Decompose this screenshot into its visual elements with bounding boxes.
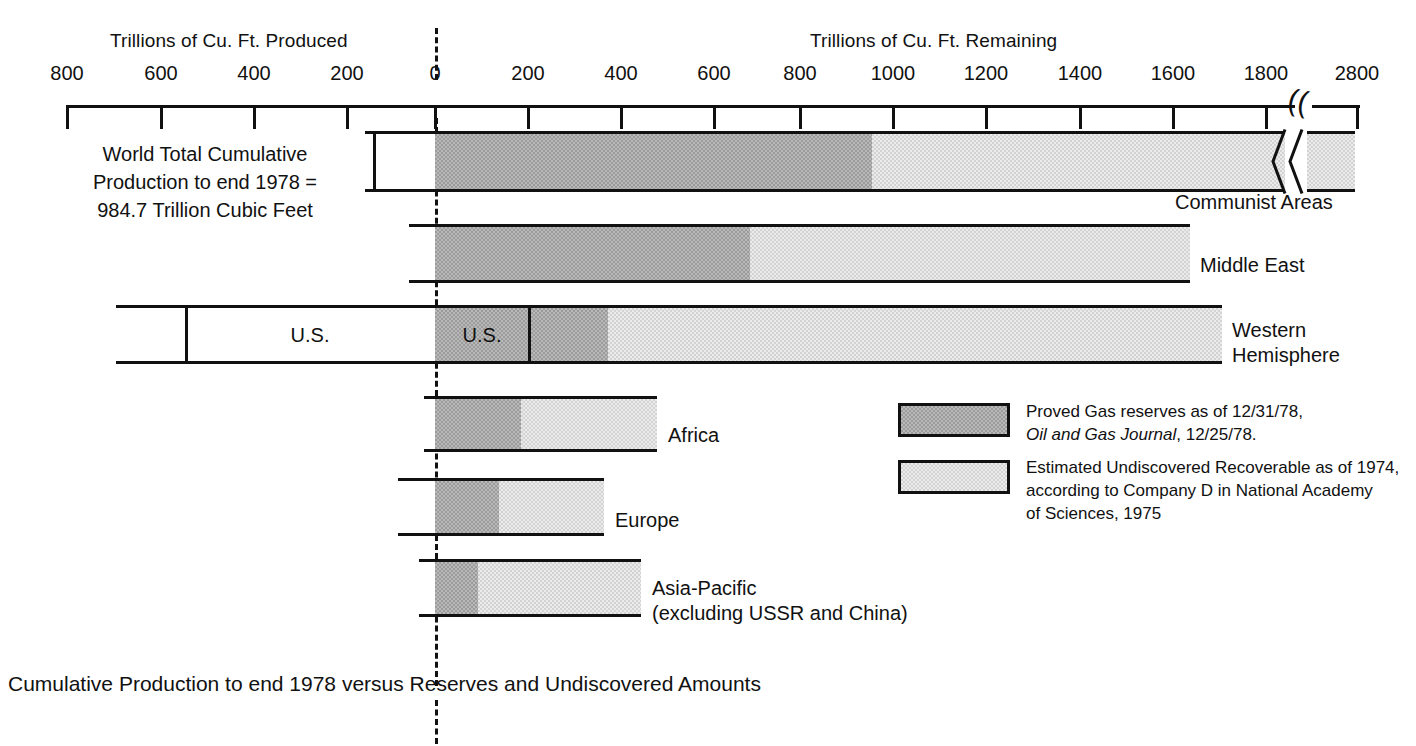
axis-tick-mark [1265, 105, 1268, 129]
segment-proved-communist-areas [435, 134, 872, 189]
chart-canvas: Trillions of Cu. Ft. Produced Trillions … [0, 0, 1416, 746]
legend-undiscovered-line-1: Estimated Undiscovered Recoverable as of… [1026, 456, 1399, 479]
bar-africa [424, 396, 657, 452]
axis-tick-label: 200 [511, 62, 544, 85]
axis-rule-main [67, 105, 1295, 108]
axis-tick-mark [1172, 105, 1175, 129]
bar-label-line: Communist Areas [1175, 190, 1333, 215]
bar-label-western-hemisphere: WesternHemisphere [1232, 318, 1340, 368]
divider-us-western-hemisphere [528, 308, 531, 361]
zero-line-top [435, 28, 438, 80]
segment-undiscovered-western-hemisphere [608, 308, 1222, 361]
axis-tick-mark [799, 105, 802, 129]
bar-label-asia-pacific: Asia-Pacific(excluding USSR and China) [652, 576, 908, 626]
axis-tick-label: 800 [50, 62, 83, 85]
bar-middle-east [409, 224, 1190, 283]
bar-communist-areas [365, 131, 1285, 192]
axis-rule-break-right [1312, 105, 1360, 108]
axis-tick-label: 1400 [1058, 62, 1103, 85]
bar-label-europe: Europe [615, 508, 680, 533]
world-total-caption: World Total Cumulative Production to end… [60, 140, 350, 224]
segment-proved-asia-pacific [435, 562, 478, 614]
segment-produced-africa [424, 399, 435, 449]
legend-undiscovered-line-2: according to Company D in National Acade… [1026, 479, 1399, 502]
bar-label-middle-east: Middle East [1200, 253, 1305, 278]
in-bar-label-us: U.S. [463, 323, 502, 346]
legend-proved-line-1: Proved Gas reserves as of 12/31/78, [1026, 400, 1303, 423]
segment-undiscovered-communist-areas [872, 134, 1285, 189]
bar-label-line: Middle East [1200, 253, 1305, 278]
axis-tick-mark [1356, 105, 1359, 129]
segment-undiscovered-asia-pacific [478, 562, 641, 614]
bar-asia-pacific [419, 559, 641, 617]
segment-undiscovered-africa [521, 399, 657, 449]
axis-title-right: Trillions of Cu. Ft. Remaining [810, 30, 1057, 52]
axis-tick-mark [985, 105, 988, 129]
bar-western-hemisphere [116, 305, 1222, 364]
axis-tick-label: 200 [330, 62, 363, 85]
axis-tick-mark [527, 105, 530, 129]
axis-tick-label: 2800 [1335, 62, 1380, 85]
segment-proved-europe [435, 481, 499, 533]
axis-tick-mark [66, 105, 69, 129]
legend-swatch-undiscovered [898, 460, 1010, 494]
axis-tick-label: 400 [604, 62, 637, 85]
axis-tick-mark [892, 105, 895, 129]
divider-inner-western-hemisphere [185, 308, 188, 361]
axis-tick-mark [620, 105, 623, 129]
zero-line-bottom [435, 700, 438, 744]
bar-label-line: Europe [615, 508, 680, 533]
legend-label-undiscovered: Estimated Undiscovered Recoverable as of… [1026, 456, 1399, 525]
axis-tick-mark [1079, 105, 1082, 129]
legend-proved-journal-italic: Oil and Gas Journal [1026, 425, 1176, 444]
segment-produced-europe [398, 481, 435, 533]
axis-tick-label: 400 [237, 62, 270, 85]
axis-tick-label: 1000 [871, 62, 916, 85]
divider-inner-communist-areas [373, 134, 376, 189]
legend-swatch-proved-reserves [898, 403, 1010, 437]
segment-produced-middle-east [409, 227, 435, 280]
legend-proved-line-2: Oil and Gas Journal, 12/25/78. [1026, 423, 1303, 446]
axis-title-left: Trillions of Cu. Ft. Produced [110, 30, 348, 52]
axis-tick-mark [160, 105, 163, 129]
bar-label-line: Africa [668, 423, 719, 448]
bar-label-africa: Africa [668, 423, 719, 448]
axis-tick-label: 600 [697, 62, 730, 85]
axis-tick-label: 1200 [964, 62, 1009, 85]
segment-proved-africa [435, 399, 521, 449]
bar-europe [398, 478, 604, 536]
in-bar-label-us: U.S. [291, 323, 330, 346]
bar-label-line: (excluding USSR and China) [652, 601, 908, 626]
bar-label-line: Western [1232, 318, 1340, 343]
axis-tick-label: 600 [144, 62, 177, 85]
segment-undiscovered-middle-east [750, 227, 1190, 280]
world-total-caption-line-3: 984.7 Trillion Cubic Feet [60, 196, 350, 224]
axis-tick-mark [713, 105, 716, 129]
axis-tick-mark [253, 105, 256, 129]
segment-produced-asia-pacific [419, 562, 435, 614]
segment-produced-western-hemisphere [116, 308, 435, 361]
footer-caption: Cumulative Production to end 1978 versus… [8, 672, 761, 696]
bar-break-zigzag-communist-areas [1259, 128, 1311, 195]
legend-proved-journal-date: , 12/25/78. [1176, 425, 1256, 444]
world-total-caption-line-1: World Total Cumulative [60, 140, 350, 168]
axis-break-icon: (( [1285, 84, 1311, 117]
segment-proved-middle-east [435, 227, 750, 280]
bar-label-communist-areas: Communist Areas [1175, 190, 1333, 215]
segment-proved-western-hemisphere [435, 308, 608, 361]
world-total-caption-line-2: Production to end 1978 = [60, 168, 350, 196]
axis-tick-label: 1800 [1244, 62, 1289, 85]
segment-undiscovered-europe [499, 481, 604, 533]
axis-tick-label: 1600 [1151, 62, 1196, 85]
axis-tick-mark [346, 105, 349, 129]
legend-undiscovered-line-3: of Sciences, 1975 [1026, 502, 1399, 525]
bar-label-line: Asia-Pacific [652, 576, 908, 601]
axis-tick-label: 800 [783, 62, 816, 85]
bar-label-line: Hemisphere [1232, 343, 1340, 368]
legend-label-proved-reserves: Proved Gas reserves as of 12/31/78, Oil … [1026, 400, 1303, 446]
